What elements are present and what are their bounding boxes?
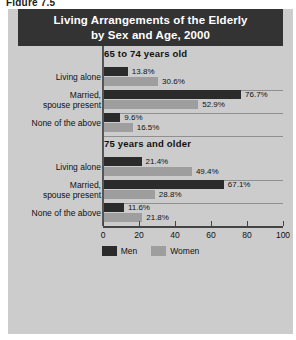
bar-value-women: 28.8%	[159, 190, 182, 199]
bar-women	[103, 100, 198, 109]
legend-label: Women	[170, 246, 199, 256]
chart-title-line-1: Living Arrangements of the Elderly	[53, 13, 247, 28]
bar-value-men: 11.6%	[128, 203, 150, 212]
category-label-line: Married,	[1, 90, 101, 100]
category-label: None of the above	[1, 208, 101, 218]
category-label-line: Married,	[1, 180, 101, 190]
chart-title-line-2: by Sex and Age, 2000	[91, 28, 210, 43]
x-axis-tick	[103, 221, 104, 226]
x-axis-tick-label: 40	[163, 230, 187, 240]
chart-title-bar: Living Arrangements of the Elderly by Se…	[18, 9, 283, 46]
bar-women	[103, 213, 142, 222]
legend-item[interactable]: Men	[102, 246, 138, 256]
bar-value-women: 21.8%	[146, 213, 169, 222]
x-axis-tick	[247, 221, 248, 226]
legend-swatch	[102, 246, 117, 256]
bar-value-women: 16.5%	[137, 123, 160, 132]
chart-figure-panel: Living Arrangements of the Elderly by Se…	[8, 9, 293, 334]
bar-value-men: 76.7%	[245, 90, 268, 99]
group-heading: 65 to 74 years old	[104, 48, 187, 59]
bar-value-women: 52.9%	[202, 100, 225, 109]
category-label: Living alone	[1, 72, 101, 82]
category-label-line: Living alone	[1, 72, 101, 82]
x-axis-tick	[211, 221, 212, 226]
legend-swatch	[151, 246, 166, 256]
bar-value-men: 13.8%	[132, 67, 155, 76]
group-heading: 75 years and older	[104, 138, 191, 149]
bar-men	[103, 90, 241, 99]
category-label-line: None of the above	[1, 208, 101, 218]
x-axis-tick-label: 60	[199, 230, 223, 240]
x-axis-tick-label: 20	[127, 230, 151, 240]
x-axis-tick-label: 80	[235, 230, 259, 240]
bar-value-women: 30.6%	[162, 77, 185, 86]
category-label-line: Living alone	[1, 162, 101, 172]
category-label: Living alone	[1, 162, 101, 172]
bar-value-men: 9.6%	[124, 113, 142, 122]
bar-women	[103, 77, 158, 86]
bar-women	[103, 123, 133, 132]
x-axis-tick	[175, 221, 176, 226]
category-label-line: spouse present	[1, 190, 101, 200]
chart-plot-area: 65 to 74 years old13.8%30.6%Living alone…	[8, 46, 293, 334]
chart-legend: MenWomen	[8, 246, 293, 256]
bar-value-men: 21.4%	[146, 157, 169, 166]
legend-label: Men	[121, 246, 138, 256]
bar-men	[103, 203, 124, 212]
bar-men	[103, 180, 224, 189]
legend-item[interactable]: Women	[151, 246, 199, 256]
category-label: None of the above	[1, 118, 101, 128]
y-axis-line	[102, 46, 104, 226]
x-axis-tick-label: 100	[271, 230, 295, 240]
x-axis-tick	[283, 221, 284, 226]
category-label: Married,spouse present	[1, 180, 101, 200]
x-axis-tick	[139, 221, 140, 226]
category-label-line: spouse present	[1, 100, 101, 110]
bar-value-women: 49.4%	[196, 167, 219, 176]
bar-women	[103, 167, 192, 176]
figure-caption: Figure 7.5	[6, 0, 55, 6]
category-label-line: None of the above	[1, 118, 101, 128]
gridline	[103, 136, 283, 137]
bar-men	[103, 67, 128, 76]
bar-men	[103, 113, 120, 122]
bar-men	[103, 157, 142, 166]
bar-value-men: 67.1%	[228, 180, 251, 189]
x-axis-line	[103, 226, 283, 228]
bar-women	[103, 190, 155, 199]
category-label: Married,spouse present	[1, 90, 101, 110]
x-axis-tick-label: 0	[91, 230, 115, 240]
